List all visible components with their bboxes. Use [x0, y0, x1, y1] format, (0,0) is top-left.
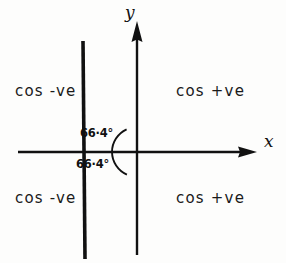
- math-diagram: cos -ve cos +ve cos -ve cos +ve 66·4° 66…: [0, 0, 286, 263]
- y-axis-label: y: [125, 2, 135, 22]
- y-axis-arrowhead: [132, 21, 143, 42]
- diagram-canvas: [0, 0, 286, 263]
- angle-arc-upper: [112, 129, 127, 152]
- transversal-line: [83, 41, 85, 259]
- quadrant-label-bottom-left: cos -ve: [15, 189, 77, 207]
- angle-label-lower: 66·4°: [76, 157, 109, 171]
- x-axis-label: x: [264, 131, 274, 151]
- angle-label-upper: 66·4°: [80, 126, 113, 140]
- quadrant-label-bottom-right: cos +ve: [176, 189, 245, 207]
- quadrant-label-top-right: cos +ve: [176, 82, 245, 100]
- x-axis-arrowhead: [238, 147, 257, 158]
- angle-arc-lower: [112, 152, 127, 175]
- quadrant-label-top-left: cos -ve: [15, 82, 77, 100]
